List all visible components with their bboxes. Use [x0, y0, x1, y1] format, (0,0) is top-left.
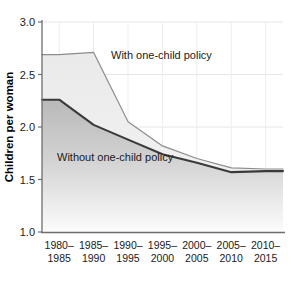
xtick-label-2010-2015-line1: 2010–	[251, 239, 280, 251]
xtick-label-1985-1990-line1: 1985–	[79, 239, 108, 251]
xtick-label-1990-1995-line2: 1995	[116, 252, 140, 264]
fertility-area-chart: 3.0 2.5 2.0 1.5 1.0 Children per woman 1…	[0, 0, 291, 286]
xtick-label-2000-2005-line2: 2005	[185, 252, 209, 264]
xtick-label-2005-2010-line2: 2010	[220, 252, 244, 264]
xtick-label-1990-1995-line1: 1990–	[113, 239, 142, 251]
xtick-label-1995-2000-line2: 2000	[151, 252, 175, 264]
xtick-label-1980-1985-line2: 1985	[48, 252, 72, 264]
ytick-label-2-5: 2.5	[20, 69, 35, 81]
xtick-label-1995-2000-line1: 1995–	[148, 239, 177, 251]
ytick-label-3-0: 3.0	[20, 16, 35, 28]
annotation-with-one-child-policy: With one-child policy	[111, 49, 212, 61]
xtick-label-2005-2010-line1: 2005–	[217, 239, 246, 251]
x-axis-tick-labels: 1980– 1985 1985– 1990 1990– 1995 1995– 2…	[45, 239, 281, 264]
xtick-label-2010-2015-line2: 2015	[254, 252, 278, 264]
xtick-label-1980-1985-line1: 1980–	[45, 239, 74, 251]
xtick-label-2000-2005-line1: 2000–	[182, 239, 211, 251]
ytick-label-2-0: 2.0	[20, 121, 35, 133]
ytick-label-1-0: 1.0	[20, 226, 35, 238]
chart-container: 3.0 2.5 2.0 1.5 1.0 Children per woman 1…	[0, 0, 291, 286]
xtick-label-1985-1990-line2: 1990	[82, 252, 106, 264]
ytick-label-1-5: 1.5	[20, 174, 35, 186]
annotation-without-one-child-policy: Without one-child policy	[57, 151, 174, 163]
y-axis-title: Children per woman	[3, 72, 15, 183]
